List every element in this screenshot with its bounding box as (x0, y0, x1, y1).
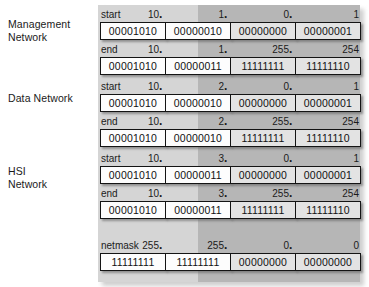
address-row-header: end10.3.255.254 (98, 187, 360, 201)
binary-octet-box: 00000000 (295, 253, 361, 271)
octet-separator-dot: . (224, 240, 229, 250)
network-label-management: ManagementNetwork (8, 18, 96, 43)
octet-separator-dot: . (289, 44, 294, 54)
octet-separator-dot: . (159, 116, 164, 126)
address-row-header: start10.1.0.1 (98, 8, 360, 22)
decimal-octet: 1. (165, 9, 229, 21)
decimal-octet: 2. (165, 116, 229, 128)
address-row: start10.1.0.1000010100000001000000000000… (98, 8, 364, 40)
decimal-octet: 0. (230, 81, 294, 93)
decimal-octet: 255. (230, 44, 294, 56)
binary-octet-box: 11111110 (295, 129, 361, 147)
octet-separator-dot: . (224, 188, 229, 198)
binary-octet-box: 00001010 (100, 22, 166, 40)
network-label-column: ManagementNetwork Data Network HSINetwor… (0, 0, 96, 287)
binary-octet-box: 00000000 (230, 253, 296, 271)
binary-octet-group: 00001010000000111111111111111110 (98, 201, 362, 219)
network-label-hsi: HSINetwork (8, 165, 96, 190)
binary-octet-box: 11111111 (165, 253, 231, 271)
decimal-octet: 10. (100, 116, 164, 128)
octet-separator-dot: . (224, 116, 229, 126)
binary-octet-box: 00000011 (165, 166, 231, 184)
address-row-header: start10.2.0.1 (98, 80, 360, 94)
decimal-octet-value: 255 (272, 44, 289, 55)
address-row-header: end10.1.255.254 (98, 43, 360, 57)
decimal-octet: 10. (100, 9, 164, 21)
octet-separator-dot: . (289, 81, 294, 91)
octet-separator-dot: . (289, 240, 294, 250)
decimal-octet: 1 (295, 153, 359, 165)
decimal-octet: 254 (295, 44, 359, 56)
octet-separator-dot: . (224, 81, 229, 91)
address-row-header: end10.2.255.254 (98, 115, 360, 129)
address-row-header: start10.3.0.1 (98, 152, 360, 166)
address-row-header: netmask255.255.0.0 (98, 239, 360, 253)
network-label-line: Network (8, 178, 96, 191)
decimal-octet: 1 (295, 81, 359, 93)
binary-octet-box: 11111111 (230, 57, 296, 75)
address-row: start10.3.0.1000010100000001100000000000… (98, 152, 364, 184)
decimal-octet-value: 255 (142, 240, 159, 251)
binary-octet-box: 11111110 (295, 201, 361, 219)
decimal-octet-value: 10 (148, 116, 159, 127)
decimal-octet-value: 255 (272, 116, 289, 127)
decimal-octet-value: 10 (148, 9, 159, 20)
binary-octet-box: 00000000 (230, 166, 296, 184)
decimal-octet: 3. (165, 188, 229, 200)
binary-octet-box: 11111111 (230, 129, 296, 147)
binary-octet-box: 00000001 (295, 166, 361, 184)
address-row: netmask255.255.0.01111111111111111000000… (98, 239, 364, 271)
binary-octet-box: 00001010 (100, 129, 166, 147)
network-label-data: Data Network (8, 92, 96, 105)
octet-separator-dot: . (224, 153, 229, 163)
octet-separator-dot: . (289, 9, 294, 19)
binary-octet-box: 00001010 (100, 94, 166, 112)
decimal-octet-value: 10 (148, 188, 159, 199)
decimal-octet-value: 1 (353, 81, 359, 92)
binary-octet-box: 00000010 (165, 94, 231, 112)
address-row: end10.3.255.2540000101000000011111111111… (98, 187, 364, 219)
octet-separator-dot: . (159, 153, 164, 163)
decimal-octet-value: 1 (353, 9, 359, 20)
binary-octet-box: 00000011 (165, 57, 231, 75)
binary-octet-box: 11111111 (230, 201, 296, 219)
decimal-octet-value: 10 (148, 44, 159, 55)
network-label-line: Management (8, 18, 96, 31)
decimal-octet: 255. (230, 188, 294, 200)
binary-octet-box: 00001010 (100, 57, 166, 75)
octet-separator-dot: . (224, 9, 229, 19)
binary-octet-box: 00000001 (295, 22, 361, 40)
binary-octet-group: 00001010000000111111111111111110 (98, 57, 362, 75)
octet-separator-dot: . (289, 153, 294, 163)
decimal-octet: 255. (100, 240, 164, 252)
decimal-octet: 254 (295, 188, 359, 200)
ip-address-binary-figure: ManagementNetwork Data Network HSINetwor… (0, 0, 369, 287)
binary-octet-group: 00001010000000100000000000000001 (98, 22, 362, 40)
decimal-octet: 255. (165, 240, 229, 252)
binary-octet-box: 00001010 (100, 166, 166, 184)
binary-octet-group: 00001010000000100000000000000001 (98, 94, 362, 112)
decimal-octet-value: 254 (342, 188, 359, 199)
binary-octet-box: 11111111 (100, 253, 166, 271)
decimal-octet: 254 (295, 116, 359, 128)
binary-octet-group: 00001010000000101111111111111110 (98, 129, 362, 147)
binary-octet-box: 00000010 (165, 129, 231, 147)
binary-octet-box: 00000000 (230, 94, 296, 112)
address-row: end10.1.255.2540000101000000011111111111… (98, 43, 364, 75)
octet-separator-dot: . (159, 188, 164, 198)
network-label-line: HSI (8, 165, 96, 178)
decimal-octet: 3. (165, 153, 229, 165)
decimal-octet-value: 1 (353, 153, 359, 164)
decimal-octet: 0 (295, 240, 359, 252)
network-label-line: Data Network (8, 92, 96, 105)
decimal-octet: 0. (230, 240, 294, 252)
octet-separator-dot: . (289, 116, 294, 126)
binary-octet-group: 11111111111111110000000000000000 (98, 253, 362, 271)
decimal-octet: 10. (100, 81, 164, 93)
decimal-octet: 10. (100, 188, 164, 200)
decimal-octet-value: 254 (342, 44, 359, 55)
binary-octet-box: 11111110 (295, 57, 361, 75)
binary-octet-box: 00001010 (100, 201, 166, 219)
binary-octet-box: 00000001 (295, 94, 361, 112)
decimal-octet: 0. (230, 9, 294, 21)
